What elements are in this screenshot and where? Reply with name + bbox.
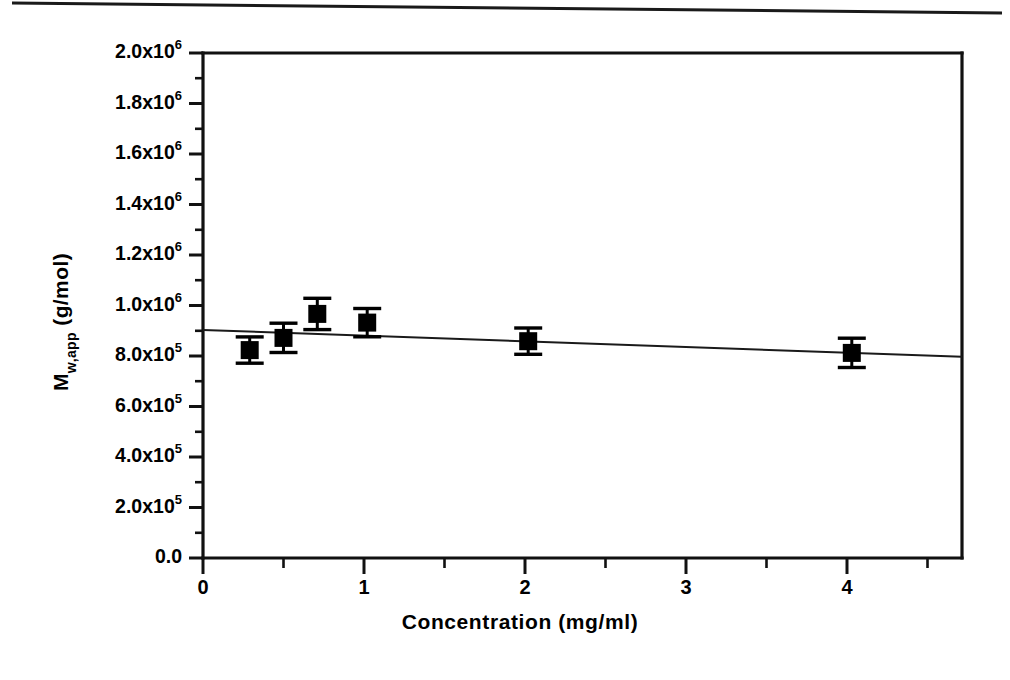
data-marker [308,305,326,323]
y-tick-label-1000000: 1.0x106 [115,289,182,314]
y-axis-tick-labels: 0.0 2.0x105 4.0x105 6.0x105 8.0x105 1.0x… [115,37,182,567]
y-tick-label-400000: 4.0x105 [115,441,182,466]
data-marker [519,332,537,350]
x-tick-label-2: 2 [519,576,530,598]
x-axis-ticks [203,558,928,574]
x-tick-label-4: 4 [841,576,853,598]
data-marker [275,329,293,347]
y-tick-label-0: 0.0 [155,545,182,567]
y-tick-label-600000: 6.0x105 [115,390,182,415]
y-tick-label-2000000: 2.0x106 [115,37,182,62]
x-tick-label-1: 1 [358,576,369,598]
data-series-mw-app [236,298,866,367]
y-tick-label-1400000: 1.4x106 [115,188,182,213]
y-axis-title: Mw,app (g/mol) [49,253,79,391]
chart-canvas: 0.0 2.0x105 4.0x105 6.0x105 8.0x105 1.0x… [0,0,1010,680]
y-axis-ticks [189,53,203,558]
page-top-rule [12,3,1002,13]
y-tick-label-1800000: 1.8x106 [115,87,182,112]
data-marker [241,341,259,359]
y-tick-label-200000: 2.0x105 [115,491,182,516]
y-tick-label-800000: 8.0x105 [115,340,182,365]
data-point [236,337,264,363]
x-tick-label-0: 0 [197,576,208,598]
y-tick-label-1600000: 1.6x106 [115,138,182,163]
data-point [353,309,381,337]
data-marker [358,314,376,332]
x-tick-label-3: 3 [680,576,691,598]
figure-root: 0.0 2.0x105 4.0x105 6.0x105 8.0x105 1.0x… [0,0,1010,680]
data-point [303,298,331,329]
y-tick-label-1200000: 1.2x106 [115,239,182,264]
data-point [270,323,298,352]
data-marker [843,344,861,362]
x-axis-tick-labels: 0 1 2 3 4 [197,576,853,598]
x-axis-title: Concentration (mg/ml) [402,610,639,633]
